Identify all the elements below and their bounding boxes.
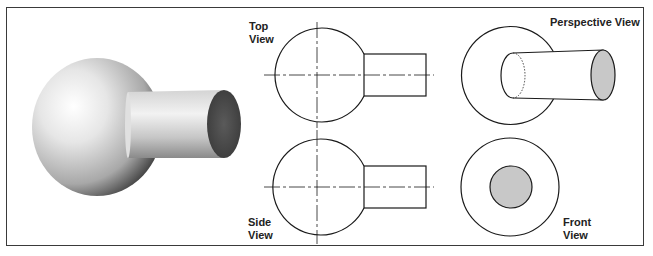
front-view-drawing [461, 138, 559, 236]
side-view-label: Side View [248, 216, 273, 242]
perspective-view-label: Perspective View [550, 16, 640, 29]
top-view-drawing [264, 22, 434, 128]
perspective-view-drawing [461, 26, 615, 124]
top-view-label: Top View [249, 20, 274, 46]
cylinder-3d-left-cap [125, 92, 131, 158]
orthographic-drawing [0, 0, 653, 256]
front-view-label: Front View [563, 216, 591, 242]
cylinder-3d-end-face [207, 90, 241, 158]
side-view-drawing [264, 130, 434, 244]
shaded-3d-model [32, 58, 241, 196]
